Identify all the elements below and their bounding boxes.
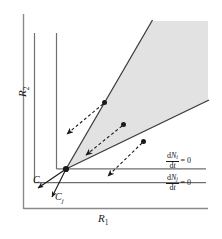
zngi-equation-i: dNi dt = 0 <box>166 152 191 170</box>
y-axis-label: R2 <box>16 87 31 97</box>
consumption-vector-i-label: Ci <box>33 174 42 188</box>
coexistence-region-shading <box>66 21 208 169</box>
derivative-fraction-i: dNi dt <box>166 152 179 170</box>
equilibrium-point <box>63 166 69 172</box>
derivative-fraction-j: dNj dt <box>166 174 179 192</box>
zngi-equation-j: dNj dt = 0 <box>166 174 191 192</box>
supply-point-dot <box>141 139 146 144</box>
consumption-vector-j-label: Cj <box>55 191 64 205</box>
supply-point-dot <box>102 100 107 105</box>
zngi-equation-j-rhs: = 0 <box>181 179 192 187</box>
x-axis-label: R1 <box>98 212 108 227</box>
zngi-equation-i-rhs: = 0 <box>181 157 192 165</box>
zngi-resource-competition-figure <box>0 0 222 239</box>
supply-point-dot <box>121 122 126 127</box>
